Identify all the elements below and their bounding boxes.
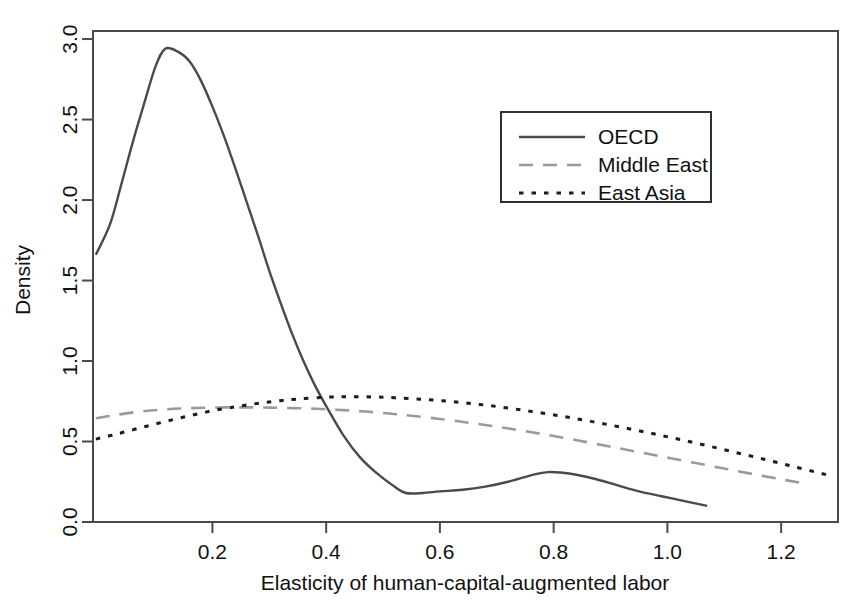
y-axis-ticks: [82, 39, 93, 522]
x-axis-tick-labels: 0.20.40.60.81.01.2: [198, 540, 796, 563]
y-tick-label-0.5: 0.5: [58, 427, 81, 456]
series-line-east-asia: [96, 397, 832, 476]
y-axis-tick-labels: 0.00.51.01.52.02.53.0: [58, 24, 81, 536]
x-tick-label-1.2: 1.2: [767, 540, 796, 563]
x-tick-label-0.8: 0.8: [539, 540, 568, 563]
legend-label-oecd: OECD: [598, 125, 659, 148]
plot-frame: [93, 31, 838, 522]
density-plot-figure: 0.20.40.60.81.01.2 0.00.51.01.52.02.53.0…: [0, 0, 854, 610]
x-tick-label-0.6: 0.6: [425, 540, 454, 563]
y-tick-label-2.5: 2.5: [58, 105, 81, 134]
y-tick-label-0.0: 0.0: [58, 507, 81, 536]
y-tick-label-2.0: 2.0: [58, 185, 81, 214]
y-axis-title: Density: [11, 244, 34, 315]
data-series-group: [96, 48, 832, 506]
x-tick-label-0.4: 0.4: [312, 540, 342, 563]
chart-legend: OECDMiddle EastEast Asia: [501, 112, 711, 204]
y-tick-label-3.0: 3.0: [58, 24, 81, 53]
x-tick-label-1.0: 1.0: [653, 540, 682, 563]
series-line-middle-east: [96, 407, 804, 483]
chart-canvas: 0.20.40.60.81.01.2 0.00.51.01.52.02.53.0…: [0, 0, 854, 610]
legend-label-middle-east: Middle East: [598, 153, 708, 176]
y-tick-label-1.5: 1.5: [58, 266, 81, 295]
y-tick-label-1.0: 1.0: [58, 346, 81, 375]
x-tick-label-0.2: 0.2: [198, 540, 227, 563]
x-axis-title: Elasticity of human-capital-augmented la…: [261, 571, 670, 594]
legend-label-east-asia: East Asia: [598, 181, 686, 204]
x-axis-ticks: [212, 522, 781, 533]
